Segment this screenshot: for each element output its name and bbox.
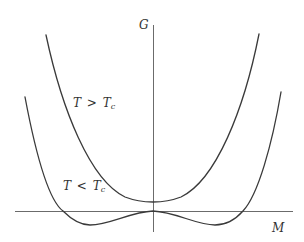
curve-above-critical xyxy=(46,34,259,202)
diagram-canvas: G M T > Tc T < Tc xyxy=(0,0,304,242)
label-below-critical: T < Tc xyxy=(63,179,106,194)
label-above-critical: T > Tc xyxy=(73,96,116,111)
landau-free-energy-diagram: G M T > Tc T < Tc xyxy=(0,0,304,242)
vertical-axis-label: G xyxy=(139,18,149,32)
horizontal-axis-label: M xyxy=(271,221,285,235)
